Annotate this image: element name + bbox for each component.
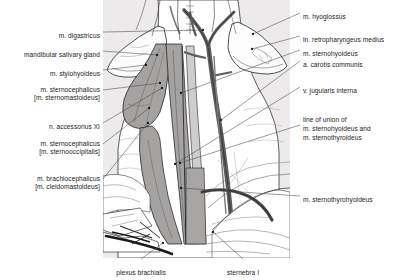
label-line: m. sternothyroideus bbox=[303, 134, 371, 143]
label-n-accessorius-xi: n. accessorius XI bbox=[49, 123, 100, 132]
label-m-sternothyrohyoideus: m. sternothyrohyoideus bbox=[303, 196, 373, 205]
leader-endpoint-a-carotis-communis bbox=[220, 119, 222, 121]
leader-endpoint-ln-retropharyngeus bbox=[251, 48, 253, 50]
label-line: sternebra I bbox=[183, 269, 303, 278]
label-m-brachiocephalicus: m. brachiocephalicus[m. cleidomastoideus… bbox=[35, 175, 100, 192]
label-line-of-union: line of union ofm. sternohyoideus andm. … bbox=[303, 116, 371, 142]
leader-endpoint-m-hyoglossus bbox=[252, 33, 254, 35]
label-m-sternohyoideus: m. sternohyoideus bbox=[303, 50, 358, 59]
label-ln-retropharyngeus: ln. retropharyngeus medius bbox=[303, 36, 384, 45]
label-line: m. sternohyoideus and bbox=[303, 125, 371, 134]
leader-endpoint-plexus-brachialis bbox=[162, 242, 164, 244]
label-line: ln. retropharyngeus medius bbox=[303, 36, 384, 45]
label-v-jugularis-interna: v. jugularis interna bbox=[303, 87, 357, 96]
leader-endpoint-mandibular-gland bbox=[156, 54, 158, 56]
leader-endpoint-m-digastricus bbox=[202, 29, 204, 31]
label-line: mandibular salivary gland bbox=[24, 51, 100, 60]
label-a-carotis-communis: a. carotis communis bbox=[303, 61, 363, 70]
label-mandibular-gland: mandibular salivary gland bbox=[24, 51, 100, 60]
leader-endpoint-v-jugularis-interna bbox=[174, 163, 176, 165]
label-m-sternocephalicus-mastoideus: m. sternocephalicus[m. sternomastoideus] bbox=[34, 86, 100, 103]
leader-endpoint-line-of-union bbox=[179, 162, 181, 164]
label-line: m. digastricus bbox=[59, 32, 100, 41]
leader-endpoint-m-brachiocephalicus bbox=[147, 122, 149, 124]
label-line: line of union of bbox=[303, 116, 371, 125]
label-sternebra-i: sternebra I bbox=[183, 269, 303, 278]
label-m-digastricus: m. digastricus bbox=[59, 32, 100, 41]
label-line: m. stylohyoideus bbox=[50, 70, 100, 79]
label-m-hyoglossus: m. hyoglossus bbox=[303, 13, 346, 22]
label-line: m. sternohyoideus bbox=[303, 50, 358, 59]
leader-endpoint-m-sternocephalicus-mastoideus bbox=[159, 82, 161, 84]
label-line: v. jugularis interna bbox=[303, 87, 357, 96]
label-line: m. brachiocephalicus bbox=[35, 175, 100, 184]
label-line: n. accessorius XI bbox=[49, 123, 100, 132]
label-m-sternocephalicus-occipitalis: m. sternocephalicus[m. sternooccipitalis… bbox=[39, 140, 100, 157]
leader-endpoint-sternebra-i bbox=[212, 231, 214, 233]
leader-endpoint-n-accessorius-xi bbox=[161, 87, 163, 89]
label-line: [m. cleidomastoideus] bbox=[35, 183, 100, 192]
label-line: [m. sternomastoideus] bbox=[34, 94, 100, 103]
anatomical-plate: m. digastricusmandibular salivary glandm… bbox=[0, 0, 393, 280]
label-line: m. sternocephalicus bbox=[39, 140, 100, 149]
leader-endpoint-m-sternocephalicus-occipitalis bbox=[148, 107, 150, 109]
label-line: m. hyoglossus bbox=[303, 13, 346, 22]
label-line: m. sternocephalicus bbox=[34, 86, 100, 95]
leader-endpoint-m-stylohyoideus bbox=[145, 64, 147, 66]
leader-endpoint-m-sternohyoideus bbox=[180, 92, 182, 94]
label-line: m. sternothyrohyoideus bbox=[303, 196, 373, 205]
label-line: a. carotis communis bbox=[303, 61, 363, 70]
leader-endpoint-m-sternothyrohyoideus bbox=[180, 187, 182, 189]
label-line: [m. sternooccipitalis] bbox=[39, 148, 100, 157]
label-m-stylohyoideus: m. stylohyoideus bbox=[50, 70, 100, 79]
